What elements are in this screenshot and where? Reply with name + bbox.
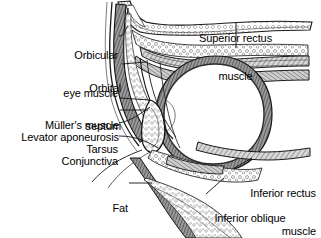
- label-line-1: Superior rectus: [190, 32, 281, 45]
- label-superior-rectus-muscle: Superior rectus muscle: [190, 7, 281, 107]
- label-line-1: Orbital: [68, 82, 121, 95]
- label-line-1: Fat: [110, 202, 128, 215]
- anatomical-figure: Orbicular eye muscle Orbital septum Müll…: [0, 0, 321, 238]
- label-line-2: muscle: [190, 70, 281, 83]
- label-line-1: Inferior oblique: [205, 212, 295, 225]
- label-conjunctiva: Conjunctiva: [53, 130, 118, 193]
- label-inferior-oblique-muscle: Inferior oblique muscle: [205, 187, 295, 238]
- label-line-1: Conjunctiva: [53, 155, 118, 168]
- label-fat: Fat: [110, 177, 128, 238]
